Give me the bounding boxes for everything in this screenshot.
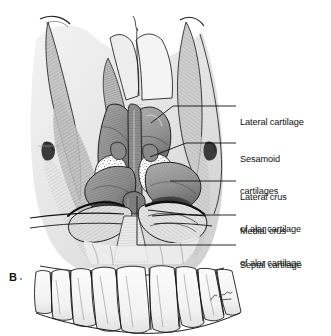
anatomical-illustration (0, 0, 331, 336)
label-medial-crus-line-1: Medial crus (240, 226, 301, 237)
panel-letter-b: B (9, 271, 17, 283)
sesamoid-nodule-right (143, 144, 159, 161)
panel-letter-dot (20, 278, 22, 280)
label-lateral-crus-line-1: Lateral crus (240, 192, 301, 203)
tooth-left-central-incisor (117, 266, 150, 333)
label-septal-cartilage-line-1: Septal cartilage (240, 260, 302, 271)
tooth-left-premolar-2 (35, 271, 53, 314)
sesamoid-nodule-left (111, 142, 127, 159)
label-septal-cartilage: Septal cartilage (240, 239, 302, 281)
label-lateral-cartilage-line-1: Lateral cartilage (240, 117, 304, 128)
label-sesamoid-cartilages-line-1: Sesamoid (240, 154, 280, 165)
